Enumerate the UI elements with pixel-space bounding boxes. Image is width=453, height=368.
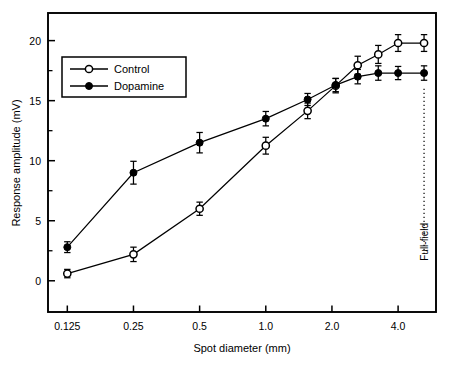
x-axis-ticks [67, 306, 398, 313]
data-point-dopamine [196, 139, 203, 146]
data-point-dopamine [375, 70, 382, 77]
chart-canvas: 0.1250.250.51.02.04.0 05101520 Full-fiel… [0, 0, 453, 368]
data-point-control [420, 39, 427, 46]
data-point-dopamine [262, 115, 269, 122]
y-tick-label: 20 [29, 35, 41, 47]
x-tick-label: 2.0 [325, 320, 340, 332]
series-line [67, 73, 424, 247]
data-point-dopamine [395, 70, 402, 77]
data-point-control [354, 62, 361, 69]
legend-marker-filled-circle [86, 83, 93, 90]
x-tick-label: 1.0 [258, 320, 273, 332]
figure-container: 0.1250.250.51.02.04.0 05101520 Full-fiel… [0, 0, 453, 368]
legend-label: Dopamine [114, 80, 164, 92]
data-point-dopamine [332, 82, 339, 89]
data-point-dopamine [64, 244, 71, 251]
y-axis-ticks [48, 41, 55, 281]
data-point-control [64, 270, 71, 277]
y-tick-label: 0 [35, 275, 41, 287]
full-field-label: Full-field [419, 223, 430, 261]
y-tick-label: 15 [29, 95, 41, 107]
x-tick-label: 4.0 [391, 320, 406, 332]
y-axis-title: Response amplitude (mV) [10, 99, 22, 226]
x-tick-label: 0.125 [54, 320, 80, 332]
data-point-dopamine [421, 70, 428, 77]
data-point-dopamine [130, 169, 137, 176]
legend-label: Control [114, 63, 149, 75]
data-point-control [304, 107, 311, 114]
data-point-control [375, 51, 382, 58]
data-point-dopamine [354, 73, 361, 80]
data-point-control [394, 39, 401, 46]
annotation-layer: Full-field [419, 89, 430, 261]
y-tick-labels: 05101520 [29, 35, 41, 287]
data-point-control [262, 142, 269, 149]
x-tick-label: 0.25 [123, 320, 144, 332]
x-axis-title: Spot diameter (mm) [193, 342, 290, 354]
x-tick-label: 0.5 [192, 320, 207, 332]
legend-marker-open-circle [85, 65, 92, 72]
x-tick-labels: 0.1250.250.51.02.04.0 [54, 320, 405, 332]
data-point-control [130, 251, 137, 258]
chart-legend: ControlDopamine [62, 57, 186, 97]
data-point-control [196, 205, 203, 212]
y-tick-label: 5 [35, 215, 41, 227]
y-tick-label: 10 [29, 155, 41, 167]
data-point-dopamine [304, 96, 311, 103]
